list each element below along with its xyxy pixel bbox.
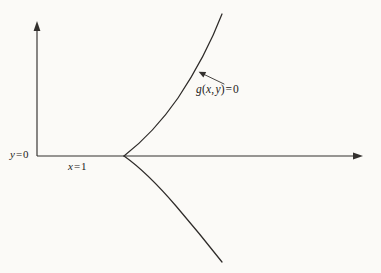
x-axis-value-label: x=1 bbox=[68, 161, 87, 172]
y-value-glyph: 0 bbox=[23, 148, 29, 160]
horizontal-axis-arrowhead-icon bbox=[353, 153, 363, 160]
vertical-axis-arrowhead-icon bbox=[34, 21, 41, 31]
figure-drawing bbox=[0, 0, 381, 273]
g-equals-glyph: = bbox=[225, 83, 233, 95]
figure-canvas: y=0 x=1 g(x,y)=0 bbox=[0, 0, 381, 273]
curve-equation-label: g(x,y)=0 bbox=[196, 84, 239, 96]
y-axis-value-label: y=0 bbox=[10, 149, 29, 160]
y-equals-glyph: = bbox=[15, 148, 23, 160]
x-value-glyph: 1 bbox=[81, 160, 87, 172]
g-value-glyph: 0 bbox=[233, 83, 239, 95]
x-equals-glyph: = bbox=[73, 160, 81, 172]
curve-lower-branch bbox=[124, 156, 222, 262]
